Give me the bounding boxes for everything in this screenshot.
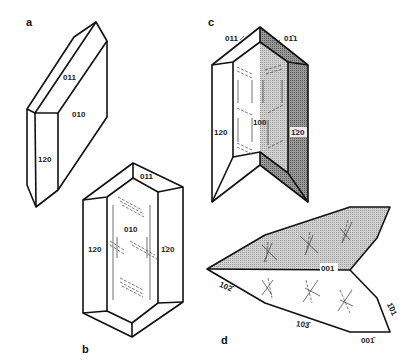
face-label-c-right: 1̄20 — [291, 128, 305, 137]
face-label-b-front: 010 — [124, 225, 138, 234]
face-label-a-top: 011 — [63, 73, 76, 82]
face-label-d-top: 001 — [321, 264, 335, 273]
face-label-c-top-left: 011 — [225, 34, 238, 43]
crystal-b: b 011 010 120 1̄20 — [82, 163, 183, 355]
face-label-d-lower-left: 102̄ — [218, 280, 236, 294]
crystal-d: d 001 102̄ 103̄ 1̄01 001̄ — [207, 207, 399, 346]
panel-label-b: b — [82, 343, 89, 355]
panel-label-c: c — [208, 16, 214, 28]
crystal-a: a 011 010 120 — [26, 16, 107, 207]
crystal-c: c 011 01̄1 100 120 — [208, 16, 308, 202]
face-label-c-center: 100 — [253, 118, 267, 127]
face-label-c-top-right: 01̄1 — [284, 34, 298, 43]
face-label-b-top: 011 — [140, 172, 153, 181]
face-label-b-right: 1̄20 — [161, 245, 175, 254]
face-label-d-lower-mid: 103̄ — [296, 319, 312, 330]
face-label-a-side: 120 — [38, 155, 52, 164]
panel-label-a: a — [26, 16, 33, 28]
panel-label-d: d — [221, 334, 228, 346]
face-label-d-right: 1̄01 — [385, 301, 399, 317]
face-label-a-front: 010 — [72, 110, 86, 119]
face-label-c-left: 120 — [214, 128, 228, 137]
face-label-d-bottom-right: 001̄ — [361, 336, 376, 345]
crystal-habit-diagram: a 011 010 120 b — [0, 0, 408, 363]
face-label-b-left: 120 — [88, 245, 102, 254]
